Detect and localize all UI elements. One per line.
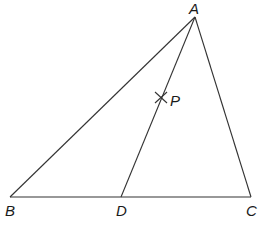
point-p-cross-mark — [155, 92, 167, 103]
label-c: C — [246, 202, 257, 219]
label-b: B — [5, 202, 15, 219]
segment-ac — [195, 17, 251, 197]
triangle-diagram: A P B D C — [0, 0, 269, 228]
segment-ad — [121, 17, 195, 197]
label-p: P — [170, 92, 180, 109]
label-a: A — [188, 0, 199, 17]
segment-ab — [10, 17, 195, 197]
label-d: D — [116, 202, 127, 219]
